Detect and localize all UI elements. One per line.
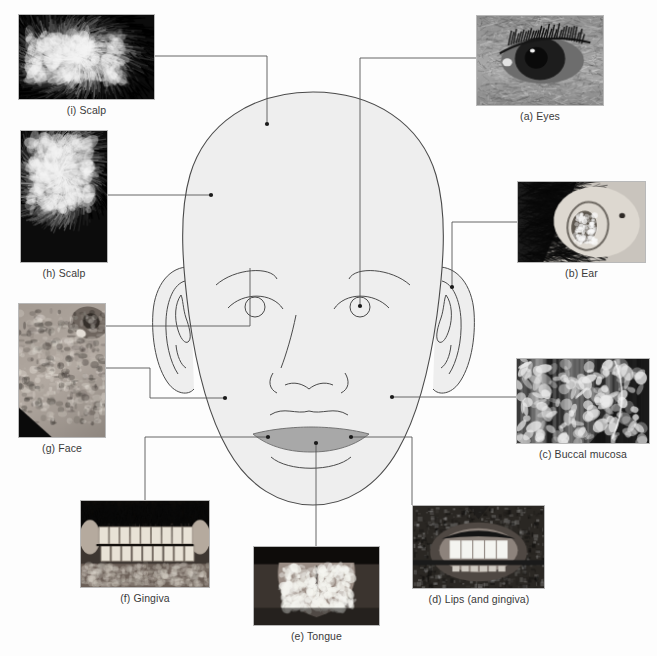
photo-scalp-h[interactable] <box>20 130 108 263</box>
photo-scalp-h-canvas <box>21 131 107 262</box>
photo-buccal-mucosa[interactable] <box>516 358 650 444</box>
photo-eyes[interactable] <box>476 15 604 106</box>
caption-gingiva: (f) Gingiva <box>80 592 210 604</box>
caption-eyes: (a) Eyes <box>476 110 604 122</box>
caption-tongue: (e) Tongue <box>253 630 380 642</box>
photo-lips-and-gingiva-canvas <box>413 506 544 588</box>
caption-scalp-h: (h) Scalp <box>20 267 108 279</box>
photo-ear[interactable] <box>517 181 646 263</box>
figure-oral-facial-examination-sites: (a) Eyes(b) Ear(c) Buccal mucosa(d) Lips… <box>0 0 657 656</box>
photo-tongue-canvas <box>254 547 379 625</box>
photo-lips-and-gingiva[interactable] <box>412 505 545 589</box>
photo-face-canvas <box>19 304 105 437</box>
photo-tongue[interactable] <box>253 546 380 626</box>
photo-face[interactable] <box>18 303 106 438</box>
photo-gingiva[interactable] <box>80 500 210 588</box>
caption-ear: (b) Ear <box>517 267 646 279</box>
caption-buccal-mucosa: (c) Buccal mucosa <box>516 448 650 460</box>
photo-ear-canvas <box>518 182 645 262</box>
caption-face: (g) Face <box>18 442 106 454</box>
caption-lips-and-gingiva: (d) Lips (and gingiva) <box>400 593 558 605</box>
photo-scalp-i-canvas <box>19 15 154 99</box>
photo-gingiva-canvas <box>81 501 209 587</box>
photo-buccal-mucosa-canvas <box>517 359 649 443</box>
caption-scalp-i: (i) Scalp <box>18 104 155 116</box>
photo-scalp-i[interactable] <box>18 14 155 100</box>
photo-eyes-canvas <box>477 16 603 105</box>
